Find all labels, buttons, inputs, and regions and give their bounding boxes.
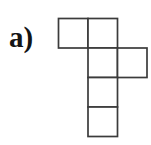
square-r2c3 xyxy=(118,48,148,78)
square-r1c1 xyxy=(59,19,89,49)
square-r2c2 xyxy=(88,48,118,78)
net-cell-group xyxy=(59,19,148,137)
figure-panel: a) xyxy=(0,0,151,145)
square-r4c2 xyxy=(88,107,118,137)
square-r3c2 xyxy=(88,78,118,108)
square-r1c2 xyxy=(88,19,118,49)
polyomino-net-diagram xyxy=(0,0,151,145)
